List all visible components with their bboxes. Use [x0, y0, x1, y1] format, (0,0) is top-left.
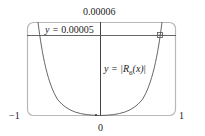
ref-eq-value: 0.00005	[61, 24, 94, 35]
x-origin-label: 0	[98, 123, 103, 133]
y-top-label: 0.00006	[83, 7, 116, 17]
ref-eq-y: y =	[45, 24, 61, 35]
curve-eq-prefix: y = |	[104, 63, 123, 74]
origin-dot	[95, 114, 97, 116]
curve-eq-suffix: |	[144, 63, 146, 74]
reference-line-label: y = 0.00005	[45, 25, 94, 35]
x-right-label: 1	[179, 111, 184, 121]
plot-svg	[0, 0, 205, 136]
curve-label: y = |R6(x)|	[104, 64, 146, 78]
plot-frame	[28, 23, 176, 116]
x-left-label: −1	[9, 111, 20, 121]
curve-eq-arg: (x)	[133, 63, 144, 74]
